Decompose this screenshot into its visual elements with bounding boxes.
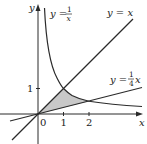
svg-text:x: x: [67, 14, 72, 23]
x-tick-label-2: 2: [86, 117, 92, 128]
x-axis-arrow-icon: [136, 112, 143, 117]
svg-text:1: 1: [129, 70, 134, 79]
x-axis-label: x: [139, 117, 145, 128]
label-y-equals-quarter-x: y = 1 4 x: [109, 70, 141, 88]
x-tick-label-1: 1: [61, 117, 67, 128]
y-tick-label-1: 1: [27, 83, 33, 94]
region-diagram: y x 0 1 2 1 y = 1 x y = x y = 1 4 x: [0, 0, 147, 144]
y-axis-label: y: [28, 2, 35, 13]
svg-text:4: 4: [129, 79, 134, 88]
origin-label: 0: [40, 117, 46, 128]
svg-text:y =: y =: [109, 74, 127, 85]
label-y-equals-one-over-x: y = 1 x: [49, 5, 72, 23]
svg-text:x: x: [135, 74, 141, 85]
label-y-equals-x: y = x: [106, 7, 133, 18]
y-axis-arrow-icon: [36, 4, 41, 11]
shaded-region: [38, 89, 89, 115]
svg-text:1: 1: [67, 5, 72, 14]
svg-text:y =: y =: [49, 8, 67, 19]
